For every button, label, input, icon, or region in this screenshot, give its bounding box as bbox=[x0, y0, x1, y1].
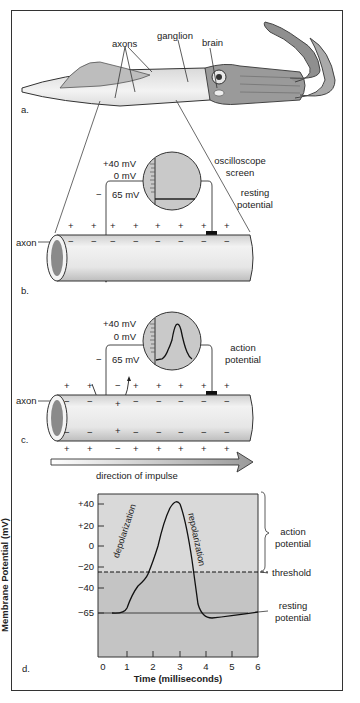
xtick-6: 6 bbox=[252, 661, 264, 672]
axon-action bbox=[38, 395, 253, 441]
label-axons: axons bbox=[112, 38, 137, 49]
xtick-3: 3 bbox=[174, 661, 186, 672]
label-threshold: threshold bbox=[272, 567, 311, 578]
label-d-resting-potential: potential bbox=[268, 612, 318, 623]
xtick-0: 0 bbox=[97, 661, 109, 672]
impulse-direction-arrow bbox=[51, 452, 253, 472]
label-brain: brain bbox=[202, 37, 223, 48]
panel-b-letter: b. bbox=[21, 285, 29, 296]
scope-c-plus40: +40 mV bbox=[96, 318, 136, 329]
xtick-2: 2 bbox=[147, 661, 159, 672]
label-axon-c: axon bbox=[16, 395, 37, 406]
label-resting-potential: potential bbox=[230, 199, 280, 210]
scope-c-minus-sign: − bbox=[96, 354, 102, 365]
label-direction-of-impulse: direction of impulse bbox=[96, 470, 178, 481]
label-d-action-potential: potential bbox=[268, 538, 318, 549]
label-d-resting: resting bbox=[268, 600, 318, 611]
ytick-minus20: −20 bbox=[64, 561, 94, 572]
ytick-plus20: +20 bbox=[64, 520, 94, 531]
diagram-art bbox=[0, 0, 360, 703]
ytick-plus40: +40 bbox=[64, 498, 94, 509]
zoom-line-left bbox=[55, 101, 100, 233]
label-d-action: action bbox=[268, 526, 318, 537]
scope-c-minus65: 65 mV bbox=[112, 354, 139, 365]
label-oscilloscope: oscilloscope bbox=[210, 155, 270, 166]
label-axon-b: axon bbox=[16, 237, 37, 248]
panel-a-letter: a. bbox=[21, 104, 29, 115]
panel-c-letter: c. bbox=[21, 434, 28, 445]
y-axis-label: Membrane Potential (mV) bbox=[0, 510, 10, 640]
label-screen: screen bbox=[210, 167, 270, 178]
scope-b-plus40: +40 mV bbox=[96, 158, 136, 169]
ytick-minus40: −40 bbox=[64, 582, 94, 593]
label-resting: resting bbox=[230, 187, 280, 198]
xtick-1: 1 bbox=[121, 661, 133, 672]
ytick-minus65: −65 bbox=[64, 607, 94, 618]
scope-b-zero: 0 mV bbox=[96, 170, 136, 181]
xtick-4: 4 bbox=[200, 661, 212, 672]
label-action: action bbox=[218, 342, 268, 353]
scope-b-minus65: 65 mV bbox=[112, 189, 139, 200]
label-ganglion: ganglion bbox=[157, 30, 193, 41]
scope-c-zero: 0 mV bbox=[96, 331, 136, 342]
label-action-potential: potential bbox=[218, 354, 268, 365]
ytick-0: 0 bbox=[64, 540, 94, 551]
xtick-5: 5 bbox=[226, 661, 238, 672]
scope-b-minus-sign: − bbox=[96, 189, 102, 200]
panel-d-letter: d. bbox=[22, 663, 30, 674]
x-axis-label: Time (milliseconds) bbox=[128, 673, 228, 684]
